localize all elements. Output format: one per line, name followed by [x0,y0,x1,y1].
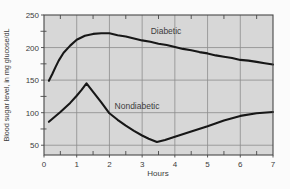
y-tick-label: 150 [26,76,40,85]
x-axis-title: Hours [147,169,168,178]
x-tick-label: 5 [205,160,210,169]
plot-area [44,15,273,155]
x-tick-label: 4 [173,160,178,169]
y-axis-title: Blood sugar level, in mg glucose/dL [2,28,11,141]
nondiabetic-curve-label: Nondiabetic [115,101,161,111]
x-tick-label: 0 [42,160,47,169]
y-tick-label: 50 [30,141,39,150]
blood-sugar-line-chart: Diabetic Nondiabetic Hours Blood sugar l… [0,0,290,189]
x-tick-label: 3 [140,160,145,169]
diabetic-curve-label: Diabetic [151,26,182,36]
y-tick-labels: 50100150200250 [26,11,40,150]
x-tick-labels: 01234567 [42,160,276,169]
x-tick-label: 1 [74,160,79,169]
x-tick-label: 7 [271,160,276,169]
blood-sugar-chart-figure: Diabetic Nondiabetic Hours Blood sugar l… [0,0,290,189]
x-tick-label: 6 [238,160,243,169]
x-tick-label: 2 [107,160,112,169]
y-tick-label: 250 [26,11,40,20]
y-tick-label: 200 [26,44,40,53]
y-tick-label: 100 [26,109,40,118]
